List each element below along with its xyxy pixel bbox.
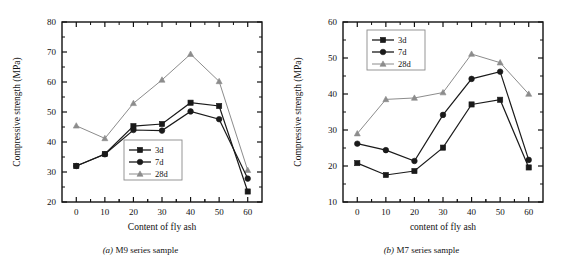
data-marker-square [383,172,388,177]
data-marker-square [217,103,222,108]
data-marker-triangle [73,123,79,128]
x-tick-label: 20 [410,207,420,217]
x-tick-label: 20 [129,207,139,217]
x-tick-label: 50 [496,207,506,217]
panel-b-m7-series: 1020304050600102030405060content of fly … [281,0,562,263]
y-tick-label: 50 [328,53,338,63]
data-marker-circle [102,152,108,158]
series-line-3d [357,100,528,175]
y-tick-label: 30 [328,125,338,135]
data-marker-circle [354,141,360,147]
data-marker-circle [469,76,475,82]
legend: 3d7d28d [367,30,425,70]
data-marker-square [188,100,193,105]
y-tick-label: 10 [328,197,338,207]
legend-label-7d: 7d [155,157,164,167]
data-marker-square [469,102,474,107]
legend-label-3d: 3d [398,35,407,45]
y-tick-label: 30 [47,167,57,177]
x-tick-label: 0 [74,207,79,217]
data-marker-square [526,165,531,170]
x-tick-label: 10 [381,207,391,217]
data-marker-square [355,161,360,166]
data-marker-circle [188,109,194,115]
x-tick-label: 10 [100,207,110,217]
y-tick-label: 40 [47,137,57,147]
data-marker-circle [526,157,532,163]
x-tick-label: 60 [243,207,253,217]
data-marker-circle [216,116,222,122]
y-tick-label: 50 [47,107,57,117]
data-marker-triangle [188,51,194,56]
y-tick-label: 70 [47,47,57,57]
data-marker-square [159,121,164,126]
x-tick-label: 30 [158,207,168,217]
data-marker-square [412,168,417,173]
data-marker-square [380,37,385,42]
y-tick-label: 20 [47,197,57,207]
data-marker-square [245,189,250,194]
y-tick-label: 60 [47,77,57,87]
data-marker-circle [497,69,503,75]
data-marker-circle [383,147,389,153]
panel-a-m9-series: 203040506070800102030405060Content of fl… [0,0,281,263]
caption-b-index: (b) [384,245,395,255]
legend-label-7d: 7d [398,47,407,57]
caption-a-text: M9 series sample [115,245,178,255]
y-axis-label: Compressive strength (MPa) [293,57,304,166]
legend-label-3d: 3d [155,145,164,155]
data-marker-circle [131,127,137,133]
y-tick-label: 60 [328,17,338,27]
y-tick-label: 80 [47,17,57,27]
x-tick-label: 60 [524,207,534,217]
data-marker-triangle [245,167,251,172]
series-3d [355,97,532,177]
x-axis-label: Content of fly ash [128,222,197,232]
legend-label-28d: 28d [155,169,169,179]
x-tick-label: 50 [215,207,225,217]
y-tick-label: 20 [328,161,338,171]
x-tick-label: 40 [467,207,477,217]
data-marker-square [440,145,445,150]
data-marker-circle [137,159,143,165]
caption-panel-a: (a) M9 series sample [0,245,281,255]
data-marker-triangle [469,51,475,56]
caption-b-text: M7 series sample [396,245,459,255]
data-marker-circle [380,49,386,55]
data-marker-square [137,147,142,152]
figure-two-panel-line-charts: 203040506070800102030405060Content of fl… [0,0,563,263]
data-marker-circle [159,128,165,134]
x-axis-label: content of fly ash [410,222,476,232]
y-tick-label: 40 [328,89,338,99]
data-marker-circle [440,112,446,118]
caption-panel-b: (b) M7 series sample [281,245,562,255]
data-marker-circle [412,158,418,164]
x-tick-label: 0 [355,207,360,217]
data-marker-circle [73,163,79,169]
legend: 3d7d28d [124,140,182,180]
caption-a-index: (a) [103,245,114,255]
x-tick-label: 40 [186,207,196,217]
chart-a-m9-series: 203040506070800102030405060Content of fl… [0,0,281,263]
x-tick-label: 30 [439,207,449,217]
data-marker-circle [245,176,251,182]
data-marker-square [498,97,503,102]
chart-b-m7-series: 1020304050600102030405060content of fly … [281,0,562,263]
legend-label-28d: 28d [398,59,412,69]
y-axis-label: Compressive strength (MPa) [12,57,23,166]
